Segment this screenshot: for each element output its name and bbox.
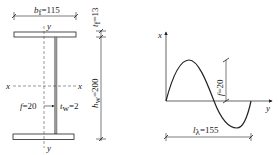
flange-width-dimension: bf=115 [12, 5, 78, 20]
flange-width-label: bf=115 [34, 5, 60, 17]
web-height-label: hw=200 [90, 78, 102, 108]
wave-vertical-axis-label: x [157, 30, 162, 40]
web-offset-annotation: f=20 tw=2 [20, 101, 79, 113]
imperfection-label: f=20 [20, 101, 37, 111]
y-axis-top-label: y [46, 21, 51, 31]
x-axis-right-label: x [77, 81, 82, 91]
x-axis-left-label: x [5, 81, 10, 91]
height-dimension: tf=13 hw=200 [90, 7, 106, 141]
imperfection-wave: x y f=20 lλ=155 [157, 30, 272, 141]
amplitude-label: f=20 [215, 79, 225, 96]
wave-horizontal-axis-label: y [265, 103, 270, 113]
sine-curve [166, 60, 251, 128]
top-flange [14, 32, 76, 37]
flange-thickness-label: tf=13 [90, 7, 102, 27]
web-thickness-label: tw=2 [60, 101, 79, 113]
bottom-flange [13, 134, 74, 140]
web [55, 37, 58, 134]
i-section: bf=115 y y x x f=20 tw=2 [5, 5, 106, 153]
y-axis-bottom-label: y [46, 143, 51, 153]
diagram-canvas: bf=115 y y x x f=20 tw=2 [0, 0, 278, 155]
wavelength-label: lλ=155 [193, 125, 219, 137]
